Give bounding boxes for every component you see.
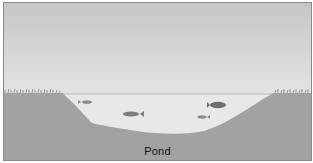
pond-label: Pond (4, 145, 311, 157)
left-bank-grass (5, 89, 60, 93)
pond-cross-section (4, 3, 311, 160)
right-bank-grass (275, 89, 308, 93)
pond-diagram: Pond (3, 2, 312, 161)
